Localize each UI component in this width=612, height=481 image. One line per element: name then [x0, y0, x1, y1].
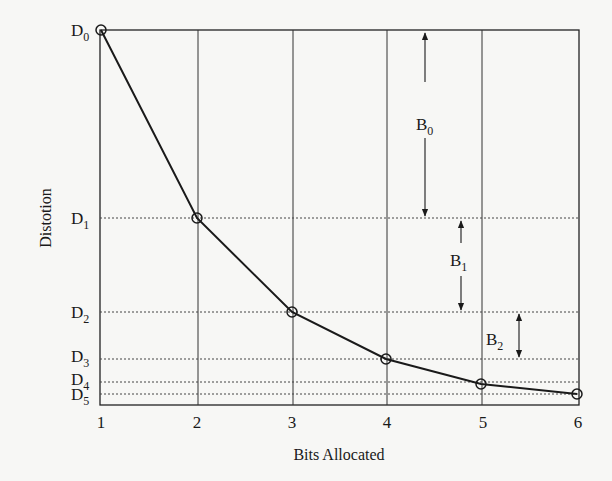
b1-annotation: B1 — [450, 221, 467, 310]
x-tick-3: 3 — [288, 413, 297, 432]
b1-label: B1 — [450, 251, 467, 274]
plot-frame — [100, 30, 579, 405]
x-tick-1: 1 — [97, 413, 106, 432]
b2-annotation: B2 — [486, 314, 519, 357]
y-axis-label: Distotion — [37, 188, 54, 248]
y-tick-labels: D0 D1 D2 D3 D4 D5 — [71, 21, 89, 408]
x-tick-5: 5 — [479, 413, 488, 432]
distortion-curve — [101, 30, 577, 394]
distortion-level-lines — [100, 218, 579, 394]
y-tick-d0: D0 — [71, 21, 89, 44]
x-tick-2: 2 — [193, 413, 202, 432]
y-tick-d3: D3 — [71, 347, 89, 370]
b0-annotation: B0 — [416, 33, 433, 216]
chart-canvas: D0 D1 D2 D3 D4 D5 1 2 3 4 5 6 Bits Alloc… — [0, 0, 612, 481]
x-tick-labels: 1 2 3 4 5 6 — [97, 413, 583, 432]
data-point-markers — [96, 25, 582, 399]
b2-label: B2 — [486, 330, 503, 353]
y-tick-d2: D2 — [71, 303, 89, 326]
x-tick-4: 4 — [383, 413, 392, 432]
b0-label: B0 — [416, 115, 433, 138]
x-tick-6: 6 — [574, 413, 583, 432]
y-tick-d1: D1 — [71, 209, 89, 232]
x-axis-label: Bits Allocated — [293, 446, 384, 463]
